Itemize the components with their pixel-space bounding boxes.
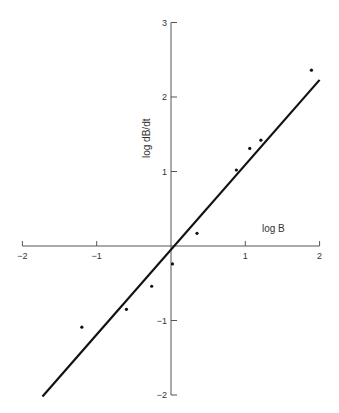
x-tick-label: −1 (92, 251, 102, 261)
data-point (80, 326, 83, 329)
y-tick-label: −2 (157, 390, 167, 400)
data-point (195, 232, 198, 235)
data-point (310, 69, 313, 72)
tick-labels: −2−112321−1−2 (17, 18, 322, 401)
y-tick-label: 2 (162, 92, 167, 102)
data-point (171, 262, 174, 265)
x-tick-label: −2 (17, 251, 27, 261)
data-point (150, 285, 153, 288)
x-axis-label: log B (262, 223, 285, 234)
data-points (80, 69, 313, 329)
axes (22, 23, 319, 396)
data-point (125, 308, 128, 311)
fit-line (42, 80, 319, 397)
x-tick-label: 1 (243, 251, 248, 261)
y-tick-label: 1 (162, 167, 167, 177)
data-point (248, 147, 251, 150)
y-tick-label: −1 (157, 316, 167, 326)
scatter-chart: −2−112321−1−2 log B log dB/dt (0, 0, 339, 413)
data-point (235, 168, 238, 171)
x-tick-label: 2 (317, 251, 322, 261)
y-axis-label: log dB/dt (141, 118, 152, 158)
data-point (259, 139, 262, 142)
y-tick-label: 3 (162, 18, 167, 28)
